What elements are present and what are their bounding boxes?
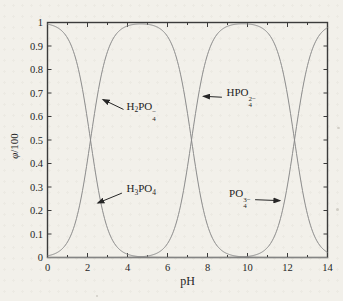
x-tick-label: 8 (205, 262, 210, 273)
scan-speckle (96, 295, 98, 297)
y-tick-label: 0.5 (30, 135, 43, 146)
annotation-label-h3po4: H3PO4 (127, 182, 157, 197)
ylabel-phi: φ (8, 153, 20, 159)
x-tick-label: 12 (282, 262, 293, 273)
annotation-label-po4: PO3−4 (229, 187, 251, 210)
y-tick-label: 0.2 (30, 205, 43, 216)
annotation-arrow-h3po4 (98, 193, 122, 203)
phosphate-speciation-figure: 0246810121400.10.20.30.40.50.60.70.80.91… (0, 0, 343, 301)
x-tick-label: 14 (322, 262, 333, 273)
x-tick-label: 10 (242, 262, 253, 273)
annotation-arrow-hpo4 (204, 96, 222, 97)
curve-po4 (48, 28, 328, 258)
x-axis-label: pH (47, 274, 328, 289)
formula-charge-stack: −4 (152, 109, 156, 122)
y-tick-label: 0.8 (30, 64, 43, 75)
y-tick-label: 1 (38, 17, 43, 28)
curve-h3po4 (48, 24, 328, 257)
scan-speckle (337, 127, 340, 129)
y-tick-label: 0.3 (30, 182, 43, 193)
annotation-arrow-h2po4 (103, 100, 123, 110)
formula-charge-stack: 2−4 (249, 95, 256, 108)
curve-h2po4 (48, 24, 328, 258)
annotation-label-h2po4: H2PO−4 (127, 99, 157, 122)
y-axis-label: φ/100 (8, 86, 22, 206)
y-tick-label: 0.4 (30, 158, 44, 169)
ylabel-denominator: /100 (8, 133, 20, 153)
y-tick-label: 0.9 (30, 41, 43, 52)
scan-speckle (336, 208, 339, 211)
scanned-page: 0246810121400.10.20.30.40.50.60.70.80.91… (0, 0, 343, 301)
x-tick-label: 0 (45, 262, 50, 273)
annotation-label-hpo4: HPO2−4 (227, 86, 256, 109)
x-tick-label: 2 (85, 262, 90, 273)
curve-hpo4 (48, 24, 328, 258)
y-tick-label: 0.7 (30, 88, 43, 99)
annotation-arrow-po4 (255, 200, 280, 201)
x-tick-label: 6 (165, 262, 170, 273)
y-tick-label: 0 (38, 252, 43, 263)
formula-charge-stack: 3−4 (243, 197, 250, 210)
plot-frame (48, 23, 328, 258)
y-tick-label: 0.1 (30, 229, 43, 240)
x-tick-label: 4 (125, 262, 131, 273)
chart-canvas: 0246810121400.10.20.30.40.50.60.70.80.91 (0, 0, 343, 301)
y-tick-label: 0.6 (30, 111, 43, 122)
